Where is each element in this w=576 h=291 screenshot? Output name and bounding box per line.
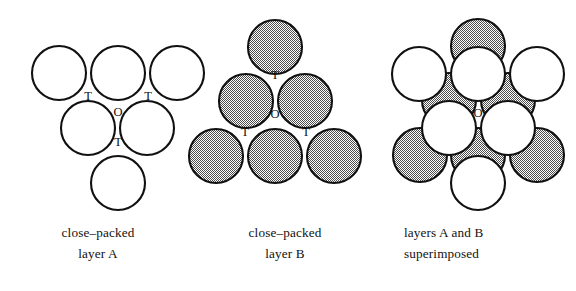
caption-layer-a-line1: close–packed: [0, 222, 196, 243]
sphere-b-bottom-right: [307, 129, 361, 183]
sphere-a-middle-left: [422, 101, 476, 155]
sphere-b-bottom-center: [248, 129, 302, 183]
caption-layer-b-line2: layer B: [186, 243, 384, 264]
caption-layer-b: close–packed layer B: [186, 222, 384, 264]
site-label-t-upper-right: T: [144, 89, 152, 103]
sphere-a-middle-right: [481, 101, 535, 155]
close-packed-layers-figure: T T O T close–packed layer A T O: [0, 0, 576, 291]
sphere-b-middle-right: [278, 74, 332, 128]
sphere-a-top-center: [451, 47, 505, 101]
site-label-o-center: O: [473, 106, 482, 120]
sphere-a-middle-left: [61, 101, 115, 155]
caption-layers-superimposed: layers A and B superimposed: [404, 222, 576, 264]
sphere-a-top-center: [91, 46, 145, 100]
sphere-a-middle-right: [120, 101, 174, 155]
sphere-a-bottom: [91, 156, 145, 210]
caption-superimposed-line1: layers A and B: [404, 222, 576, 243]
panel-layer-b: T O T T close–packed layer B: [186, 0, 384, 220]
site-label-t-lower-right: T: [302, 125, 310, 139]
diagram-layers-superimposed: O: [384, 0, 576, 220]
site-label-o-center: O: [270, 107, 279, 121]
spheres-layer-b: [189, 20, 361, 183]
diagram-layer-a: T T O T: [0, 0, 196, 220]
site-label-t-lower-left: T: [241, 125, 249, 139]
sphere-a-top-right: [510, 47, 564, 101]
caption-layer-a-line2: layer A: [0, 243, 196, 264]
caption-layer-a: close–packed layer A: [0, 222, 196, 264]
sphere-b-bottom-left: [189, 129, 243, 183]
sphere-b-top: [248, 20, 302, 74]
panel-layers-superimposed: O layers A and B superimposed: [384, 0, 576, 220]
spheres-layer-a: [32, 46, 204, 210]
caption-superimposed-line2: superimposed: [404, 243, 576, 264]
panel-layer-a: T T O T close–packed layer A: [0, 0, 196, 220]
site-label-t-upper: T: [271, 68, 279, 82]
sphere-a-bottom: [451, 156, 505, 210]
site-label-t-upper-left: T: [84, 89, 92, 103]
sphere-a-top-left: [32, 46, 86, 100]
sphere-b-middle-left: [219, 74, 273, 128]
caption-layer-b-line1: close–packed: [186, 222, 384, 243]
site-labels-layers-superimposed: O: [473, 106, 482, 120]
sphere-a-top-left: [392, 47, 446, 101]
diagram-layer-b: T O T T: [186, 0, 384, 220]
site-label-t-lower: T: [114, 135, 122, 149]
site-label-o-center: O: [113, 105, 122, 119]
